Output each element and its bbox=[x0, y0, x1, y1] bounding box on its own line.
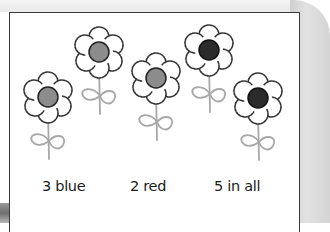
flower-center-icon bbox=[38, 87, 58, 107]
flower-center-icon bbox=[89, 42, 109, 62]
flower-red-2 bbox=[234, 73, 282, 160]
flower-red-1 bbox=[185, 25, 233, 112]
flower-blue-1 bbox=[24, 72, 72, 159]
flower-blue-2 bbox=[75, 27, 123, 114]
flower-center-icon bbox=[146, 68, 166, 88]
flower-blue-3 bbox=[132, 53, 180, 140]
total-count-label: 5 in all bbox=[214, 178, 260, 194]
flower-center-icon bbox=[199, 40, 219, 60]
flower-center-icon bbox=[248, 88, 268, 108]
blue-count-label: 3 blue bbox=[42, 178, 85, 194]
red-count-label: 2 red bbox=[130, 178, 166, 194]
